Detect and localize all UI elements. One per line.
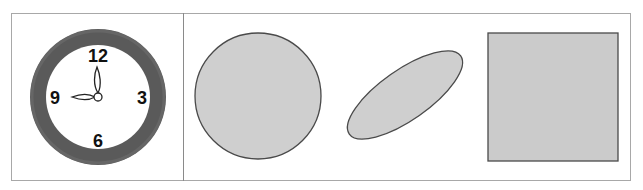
- shape-ellipse: [335, 36, 475, 155]
- clock: 12 3 6 9: [30, 29, 166, 165]
- figure-canvas: 12 3 6 9: [0, 0, 643, 190]
- clock-number-6: 6: [93, 131, 103, 151]
- clock-number-3: 3: [137, 88, 147, 108]
- clock-number-12: 12: [88, 46, 108, 66]
- clock-number-9: 9: [50, 88, 60, 108]
- clock-center-pin: [94, 93, 102, 101]
- shape-circle: [195, 33, 321, 159]
- shape-square: [488, 33, 618, 161]
